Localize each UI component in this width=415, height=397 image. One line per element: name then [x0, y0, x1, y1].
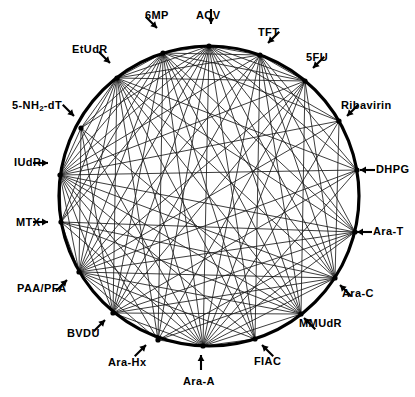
- chord-DHPG-BVDU: [113, 170, 357, 313]
- chord-DHPG-PAA/PFA: [79, 170, 357, 272]
- node-BVDU[interactable]: [110, 310, 115, 315]
- chord-IUdR-6MP: [60, 53, 163, 175]
- chord-5FU-PAA/PFA: [79, 81, 305, 272]
- node-label-Ribavirin: Ribavirin: [341, 100, 392, 111]
- node-label-BVDU: BVDU: [67, 328, 100, 339]
- node-label-EtUdR: EtUdR: [72, 44, 108, 55]
- chord-IUdR-EtUdR: [60, 78, 117, 175]
- node-MTX[interactable]: [58, 219, 63, 224]
- node-IUdR[interactable]: [57, 172, 62, 177]
- node-Ara-A[interactable]: [200, 343, 205, 348]
- chord-MMUdR-BVDU: [113, 313, 301, 314]
- node-label-Ara-T: Ara-T: [373, 226, 404, 237]
- node-label-MMUdR: MMUdR: [299, 318, 342, 329]
- node-DHPG[interactable]: [354, 167, 359, 172]
- node-label-MTX: MTX: [16, 217, 40, 228]
- node-label-ACV: ACV: [196, 10, 220, 21]
- chord-5FU-EtUdR: [117, 78, 305, 81]
- node-6MP[interactable]: [160, 50, 165, 55]
- node-TFT[interactable]: [257, 52, 262, 57]
- node-PAA/PFA[interactable]: [76, 269, 81, 274]
- chord-5-NH2-dT-EtUdR: [81, 78, 117, 128]
- chord-TFT-DHPG: [260, 55, 357, 170]
- node-ACV[interactable]: [206, 43, 211, 48]
- node-5-NH2-dT[interactable]: [78, 125, 83, 130]
- node-label-PAA/PFA: PAA/PFA: [17, 283, 67, 294]
- node-label-6MP: 6MP: [145, 10, 169, 21]
- node-label-IUdR: IUdR: [14, 157, 41, 168]
- chord-Ara-C-PAA/PFA: [79, 272, 335, 278]
- node-label-Ara-Hx: Ara-Hx: [108, 357, 146, 368]
- node-label-DHPG: DHPG: [376, 164, 409, 175]
- node-FIAC[interactable]: [252, 336, 257, 341]
- chord-MTX-EtUdR: [61, 78, 117, 222]
- chord-FIAC-IUdR: [60, 175, 255, 339]
- diagram-canvas: [0, 0, 415, 397]
- chord-diagram-figure: ACVTFT5FURibavirinDHPGAra-TAra-CMMUdRFIA…: [0, 0, 415, 397]
- node-label-5-NH2-dT: 5-NH2-dT: [12, 100, 62, 113]
- chord-ACV-5FU: [209, 46, 305, 81]
- node-Ara-C[interactable]: [332, 275, 337, 280]
- chord-MMUdR-5-NH2-dT: [81, 128, 301, 314]
- chord-layer: [60, 46, 357, 346]
- node-Ara-Hx[interactable]: [155, 337, 160, 342]
- node-label-5FU: 5FU: [306, 52, 328, 63]
- node-Ara-T[interactable]: [352, 229, 357, 234]
- node-label-TFT: TFT: [258, 27, 279, 38]
- node-label-FIAC: FIAC: [254, 356, 281, 367]
- node-Ribavirin[interactable]: [336, 118, 341, 123]
- node-EtUdR[interactable]: [114, 75, 119, 80]
- node-5FU[interactable]: [302, 78, 307, 83]
- node-MMUdR[interactable]: [298, 311, 303, 316]
- node-label-Ara-C: Ara-C: [342, 288, 374, 299]
- node-label-Ara-A: Ara-A: [183, 376, 215, 387]
